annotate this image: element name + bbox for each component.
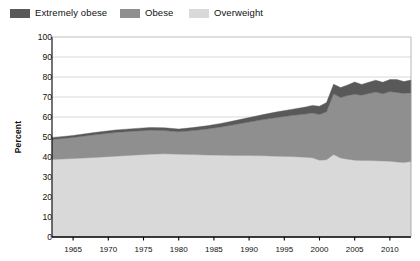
legend-swatch-obese (120, 9, 140, 18)
legend-label-obese: Obese (145, 8, 174, 18)
chart-root: Extremely obese Obese Overweight Percent… (0, 0, 420, 261)
chart-legend: Extremely obese Obese Overweight (0, 0, 420, 28)
legend-item-overweight: Overweight (189, 7, 263, 19)
legend-swatch-overweight (189, 9, 209, 18)
legend-label-overweight: Overweight (214, 8, 263, 18)
legend-swatch-extremely-obese (10, 9, 30, 18)
area-series-overweight (52, 154, 411, 237)
stacked-area-plot (0, 28, 420, 261)
legend-label-extremely-obese: Extremely obese (35, 8, 107, 18)
legend-item-extremely-obese: Extremely obese (10, 7, 107, 19)
plot-area: Percent 1009080706050403020100 196519701… (0, 28, 420, 261)
legend-item-obese: Obese (120, 7, 174, 19)
